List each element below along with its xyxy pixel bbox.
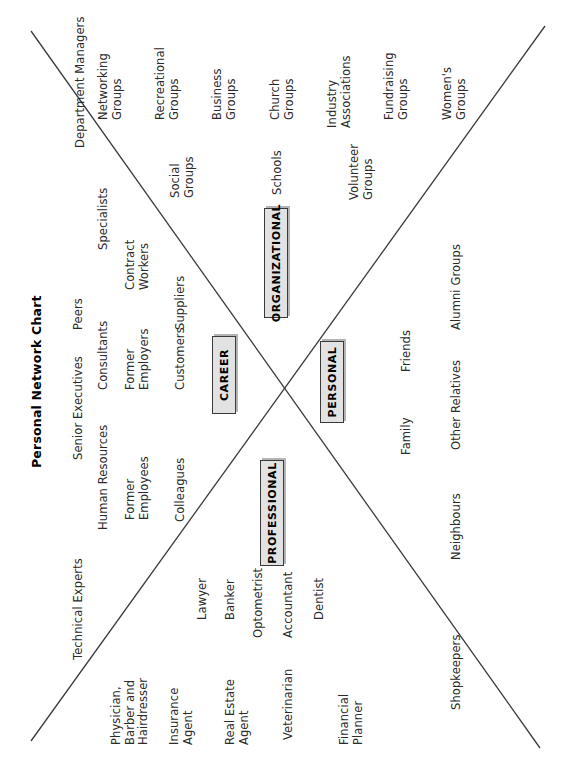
- network-label-alumni-groups: Alumni Groups: [450, 244, 464, 330]
- quadrant-box-organizational[interactable]: ORGANIZATIONAL: [264, 208, 288, 318]
- network-label-industry-associations: Industry Associations: [326, 55, 353, 128]
- network-label-contract-workers: Contract Workers: [124, 240, 151, 290]
- network-label-shopkeepers: Shopkeepers: [450, 634, 464, 710]
- network-label-consultants: Consultants: [97, 321, 111, 390]
- network-label-customers: Customers: [174, 327, 188, 390]
- network-label-womens-groups: Women's Groups: [441, 67, 468, 120]
- network-label-business-groups: Business Groups: [211, 68, 238, 120]
- network-label-networking-groups: Networking Groups: [97, 53, 124, 120]
- network-label-veterinarian: Veterinarian: [282, 669, 296, 740]
- network-label-fundraising-groups: Fundraising Groups: [383, 52, 410, 120]
- network-label-specialists: Specialists: [97, 188, 111, 250]
- network-label-physician-barber-hairdresser: Physician, Barber and Hairdresser: [110, 678, 151, 745]
- network-label-schools: Schools: [271, 150, 285, 195]
- network-label-senior-executives: Senior Executives: [72, 356, 86, 460]
- page-title: Personal Network Chart: [30, 295, 44, 468]
- quadrant-box-professional[interactable]: PROFESSIONAL: [260, 460, 284, 566]
- network-label-suppliers: Suppliers: [174, 276, 188, 330]
- network-label-lawyer: Lawyer: [196, 578, 210, 620]
- network-label-dentist: Dentist: [313, 578, 327, 620]
- network-label-department-managers: Department Managers: [74, 16, 88, 148]
- network-label-other-relatives: Other Relatives: [450, 360, 464, 450]
- network-label-accountant: Accountant: [282, 572, 296, 638]
- quadrant-box-personal[interactable]: PERSONAL: [320, 341, 344, 423]
- network-label-colleagues: Colleagues: [174, 458, 188, 522]
- network-label-social-groups: Social Groups: [169, 156, 196, 198]
- quadrant-box-career[interactable]: CAREER: [212, 336, 236, 414]
- network-label-optometrist: Optometrist: [252, 568, 266, 638]
- network-label-former-employers: Former Employers: [124, 329, 151, 391]
- personal-network-chart: Personal Network Chart CAREER ORGANIZATI…: [0, 0, 564, 763]
- network-label-volunteer-groups: Volunteer Groups: [348, 144, 375, 200]
- network-label-banker: Banker: [224, 579, 238, 620]
- network-label-real-estate-agent: Real Estate Agent: [224, 679, 251, 745]
- network-label-financial-planner: Financial Planner: [338, 694, 365, 745]
- network-label-neighbours: Neighbours: [450, 493, 464, 560]
- network-label-technical-experts: Technical Experts: [72, 558, 86, 660]
- network-label-recreational-groups: Recreational Groups: [154, 47, 181, 120]
- network-label-family: Family: [400, 417, 414, 455]
- network-label-human-resources: Human Resources: [97, 425, 111, 530]
- network-label-church-groups: Church Groups: [269, 78, 296, 120]
- network-label-insurance-agent: Insurance Agent: [168, 688, 195, 745]
- network-label-former-employees: Former Employees: [124, 456, 151, 520]
- network-label-friends: Friends: [400, 330, 414, 372]
- network-label-peers: Peers: [72, 298, 86, 330]
